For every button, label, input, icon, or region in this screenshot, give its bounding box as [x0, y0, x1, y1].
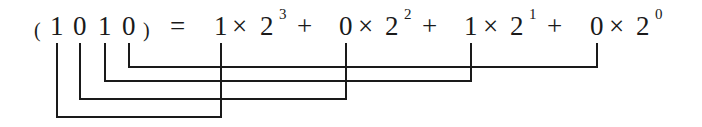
binary-expansion-diagram: ( 1 0 1 0 ) = 1 × 2 3 + 0 × 2 2 + 1 × 2 …: [0, 0, 702, 127]
connector-digit-1: [105, 44, 471, 81]
connector-lines: [0, 0, 702, 127]
connector-digit-2: [80, 44, 346, 99]
connector-digit-0: [129, 44, 597, 67]
